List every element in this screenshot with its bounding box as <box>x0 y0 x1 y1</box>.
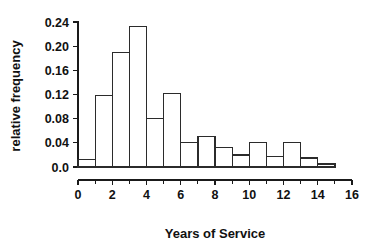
histogram-bar <box>198 137 215 167</box>
histogram-bar <box>112 52 129 167</box>
y-axis-title: relative frequency <box>8 40 23 152</box>
x-axis-group: 0246810121416 <box>75 180 359 202</box>
histogram-chart: 0.00.040.080.120.160.200.24 024681012141… <box>0 0 367 246</box>
x-tick-label: 4 <box>143 188 150 202</box>
histogram-bar <box>147 119 164 167</box>
x-tick-label: 6 <box>177 188 184 202</box>
x-axis-title: Years of Service <box>165 226 265 241</box>
histogram-bar <box>181 143 198 167</box>
histogram-bar <box>318 164 335 167</box>
y-axis-group: 0.00.040.080.120.160.200.24 <box>45 16 78 175</box>
y-tick-labels: 0.00.040.080.120.160.200.24 <box>45 16 69 175</box>
x-tick-marks <box>78 180 352 185</box>
histogram-bars <box>78 27 335 167</box>
y-tick-label: 0.0 <box>52 161 69 175</box>
histogram-bar <box>129 27 146 167</box>
y-tick-label: 0.20 <box>45 40 69 54</box>
histogram-bar <box>249 143 266 167</box>
x-tick-label: 10 <box>242 188 256 202</box>
y-tick-label: 0.08 <box>45 112 69 126</box>
y-tick-label: 0.12 <box>45 88 69 102</box>
y-tick-label: 0.24 <box>45 16 69 30</box>
y-tick-marks <box>73 22 78 167</box>
histogram-bar <box>266 156 283 167</box>
histogram-bar <box>215 148 232 167</box>
x-tick-label: 12 <box>277 188 291 202</box>
histogram-bar <box>78 160 95 167</box>
x-tick-label: 8 <box>212 188 219 202</box>
x-tick-label: 14 <box>311 188 325 202</box>
histogram-bar <box>284 143 301 167</box>
y-tick-label: 0.16 <box>45 64 69 78</box>
x-tick-label: 0 <box>75 188 82 202</box>
y-tick-label: 0.04 <box>45 136 69 150</box>
x-tick-label: 16 <box>345 188 359 202</box>
histogram-bar <box>232 155 249 167</box>
histogram-bar <box>164 93 181 167</box>
x-tick-labels: 0246810121416 <box>75 188 359 202</box>
histogram-bar <box>95 96 112 167</box>
chart-canvas: 0.00.040.080.120.160.200.24 024681012141… <box>0 0 367 246</box>
histogram-bar <box>301 158 318 167</box>
x-tick-label: 2 <box>109 188 116 202</box>
